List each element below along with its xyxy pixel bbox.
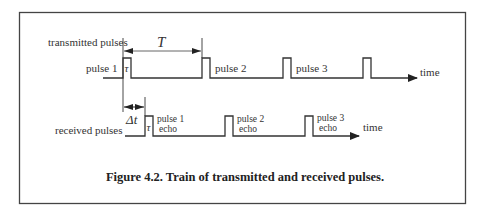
- pulse-2-label: pulse 2: [215, 62, 246, 74]
- pulse-width-symbol-rx: τ: [147, 121, 152, 133]
- transmitted-waveform: [103, 58, 417, 78]
- pulse-1-label: pulse 1: [86, 62, 117, 74]
- transmitted-row-label: transmitted pulses: [48, 36, 128, 48]
- delay-symbol: Δt: [125, 112, 138, 127]
- pulse-width-symbol-tx: τ: [125, 62, 130, 74]
- pulse-train-figure: transmitted pulses T pulse 1 τ pulse 2 p…: [0, 0, 484, 214]
- pulse-3-label: pulse 3: [296, 62, 328, 74]
- echo-1-label-line2: echo: [159, 124, 177, 134]
- transmitted-time-axis-label: time: [420, 66, 440, 78]
- period-symbol: T: [157, 34, 167, 50]
- figure-caption: Figure 4.2. Train of transmitted and rec…: [106, 170, 384, 184]
- received-time-axis-label: time: [363, 121, 383, 133]
- echo-1-label-line1: pulse 1: [157, 114, 184, 124]
- echo-3-label-line1: pulse 3: [317, 113, 344, 123]
- echo-3-label-line2: echo: [319, 123, 337, 133]
- received-row-label: received pulses: [55, 124, 123, 136]
- echo-2-label-line2: echo: [239, 124, 257, 134]
- echo-2-label-line1: pulse 2: [237, 114, 264, 124]
